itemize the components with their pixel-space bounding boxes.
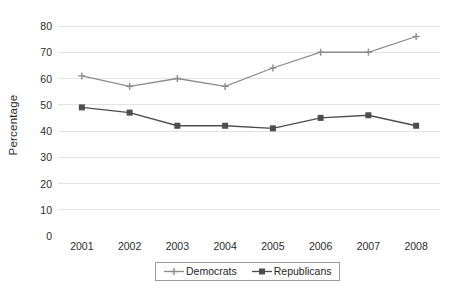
series-democrats	[78, 33, 419, 90]
x-axis-tick-label: 2008	[404, 241, 427, 252]
gridlines	[58, 26, 440, 236]
square-marker	[318, 115, 324, 121]
plus-marker	[317, 49, 324, 56]
plot-area	[58, 26, 440, 236]
x-axis-tick-label: 2004	[213, 241, 236, 252]
line-chart: Percentage 01020304050607080 20012002200…	[0, 0, 452, 299]
legend-label: Republicans	[274, 266, 332, 277]
chart-legend: DemocratsRepublicans	[155, 262, 340, 281]
series-republicans	[79, 104, 419, 131]
plus-marker	[163, 266, 185, 277]
x-axis-tick-label: 2003	[166, 241, 189, 252]
plus-marker	[365, 49, 372, 56]
square-marker	[259, 269, 265, 275]
square-marker	[413, 123, 419, 129]
plus-marker	[174, 75, 181, 82]
y-axis-tick-label: 40	[22, 126, 52, 137]
x-axis-tick-label: 2002	[118, 241, 141, 252]
square-marker	[270, 125, 276, 131]
plus-marker	[269, 65, 276, 72]
square-marker	[79, 104, 85, 110]
square-marker	[174, 123, 180, 129]
y-axis-tick-label: 0	[22, 231, 52, 242]
square-marker	[222, 123, 228, 129]
plus-marker	[222, 83, 229, 90]
plot-svg	[58, 26, 440, 236]
y-axis-tick-label: 30	[22, 152, 52, 163]
y-axis-tick-label: 50	[22, 100, 52, 111]
square-marker	[251, 266, 273, 277]
x-axis-tick-label: 2001	[70, 241, 93, 252]
legend-entry-democrats: Democrats	[163, 266, 237, 277]
legend-entry-republicans: Republicans	[251, 266, 332, 277]
plus-marker	[413, 33, 420, 40]
square-marker	[365, 112, 371, 118]
plus-marker	[126, 83, 133, 90]
plus-marker	[171, 268, 178, 275]
x-axis-tick-label: 2006	[309, 241, 332, 252]
square-marker	[127, 110, 133, 116]
x-axis-tick-label: 2005	[261, 241, 284, 252]
y-axis-tick-label: 20	[22, 178, 52, 189]
legend-label: Democrats	[186, 266, 237, 277]
series-layer	[78, 33, 419, 131]
y-axis-tick-label: 10	[22, 205, 52, 216]
x-axis-tick-label: 2007	[357, 241, 380, 252]
y-axis-tick-label: 80	[22, 21, 52, 32]
y-axis-tick-label: 70	[22, 47, 52, 58]
x-axis-tick-labels: 20012002200320042005200620072008	[58, 241, 440, 257]
y-axis-tick-labels: 01020304050607080	[18, 26, 52, 236]
y-axis-tick-label: 60	[22, 73, 52, 84]
